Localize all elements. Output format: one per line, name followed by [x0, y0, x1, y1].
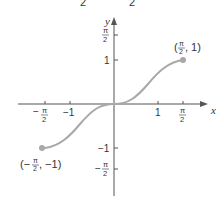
- svg-text:π: π: [179, 40, 184, 47]
- sine-graph: 2 2 x − π 2 −1 1 π 2 y: [0, 0, 222, 206]
- svg-text:−: −: [95, 163, 101, 174]
- x-axis-label: x: [210, 104, 216, 116]
- top-fragment-right: 2: [129, 0, 135, 8]
- y-tick-neg-1: −1: [98, 143, 110, 154]
- left-endpoint-dot: [39, 145, 45, 151]
- x-tick-neg-pi-over-2: − π 2: [33, 106, 48, 124]
- y-tick-1: 1: [104, 55, 110, 66]
- svg-text:, 1): , 1): [185, 41, 201, 53]
- left-endpoint-label: (− π 2 , −1): [20, 157, 61, 172]
- y-axis-arrow-icon: [111, 17, 117, 25]
- svg-text:π: π: [103, 26, 108, 35]
- y-tick-pi-over-2: π 2: [102, 26, 109, 44]
- right-endpoint-label: ( π 2 , 1): [174, 40, 201, 55]
- svg-text:2: 2: [42, 115, 46, 124]
- x-tick-1: 1: [155, 107, 161, 118]
- svg-text:π: π: [33, 157, 38, 164]
- x-tick-neg-1: −1: [63, 107, 75, 118]
- svg-text:2: 2: [103, 169, 107, 178]
- y-tick-neg-pi-over-2: − π 2: [95, 160, 109, 178]
- svg-text:(: (: [174, 41, 178, 53]
- x-axis-arrow-icon: [200, 101, 208, 107]
- right-endpoint-dot: [180, 57, 186, 63]
- svg-text:2: 2: [103, 35, 107, 44]
- svg-text:−: −: [33, 106, 39, 117]
- svg-text:2: 2: [179, 48, 183, 55]
- svg-text:π: π: [42, 106, 47, 115]
- svg-text:π: π: [180, 106, 185, 115]
- svg-text:, −1): , −1): [39, 158, 61, 170]
- svg-text:2: 2: [33, 165, 37, 172]
- top-fragment-left: 2: [80, 0, 86, 8]
- x-tick-pi-over-2: π 2: [179, 106, 186, 124]
- svg-text:2: 2: [180, 115, 184, 124]
- svg-text:π: π: [103, 160, 108, 169]
- svg-text:(−: (−: [20, 158, 30, 170]
